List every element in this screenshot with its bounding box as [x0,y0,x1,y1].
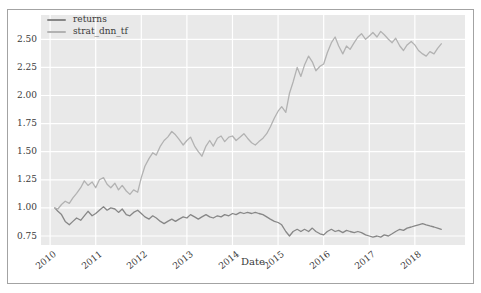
x-axis-label: Date [41,256,465,267]
returns-line [55,207,442,237]
chart-canvas [41,15,465,245]
legend-label-strat-dnn-tf: strat_dnn_tf [73,26,128,37]
legend-label-returns: returns [73,14,107,25]
y-tick-label: 1.50 [4,146,37,157]
plot-area [41,15,465,245]
legend-item-strat-dnn-tf: strat_dnn_tf [47,26,128,37]
figure: 0.751.001.251.501.752.002.252.50 2010201… [0,0,481,293]
y-tick-label: 1.75 [4,118,37,129]
returns-line-swatch-icon [47,19,66,21]
y-tick-label: 1.00 [4,202,37,213]
legend-item-returns: returns [47,14,128,25]
y-tick-label: 1.25 [4,174,37,185]
strat-dnn-tf-line-swatch-icon [47,31,66,33]
y-tick-label: 2.25 [4,62,37,73]
y-tick-label: 2.50 [4,34,37,45]
y-tick-label: 2.00 [4,90,37,101]
legend: returns strat_dnn_tf [47,14,128,37]
strat-dnn-tf-line [55,31,442,209]
y-tick-label: 0.75 [4,231,37,242]
